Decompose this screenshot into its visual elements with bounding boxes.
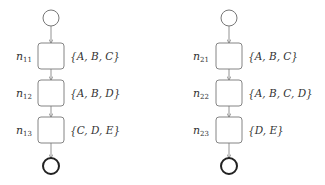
node-label: n13 [16,124,32,138]
task-node-n21[interactable] [216,43,242,69]
process-left: n11 n12 n13 {A, B, C} {A, B, D} {C, D, E… [16,10,120,174]
end-event-icon [43,158,59,174]
node-set: {A, B, C, D} [248,87,313,100]
task-node-n22[interactable] [216,80,242,106]
node-label: n11 [16,50,32,64]
node-set: {A, B, C} [70,50,120,63]
node-label: n12 [16,87,32,101]
node-label: n22 [193,87,209,101]
node-label: n21 [193,50,209,64]
node-set: {C, D, E} [70,124,120,137]
node-set: {A, B, C} [248,50,298,63]
process-right: n21 n22 n23 {A, B, C} {A, B, C, D} {D, E… [193,10,313,174]
task-node-n12[interactable] [38,80,64,106]
node-set: {D, E} [248,124,284,137]
node-set: {A, B, D} [70,87,120,100]
task-node-n23[interactable] [216,117,242,143]
end-event-icon [221,158,237,174]
task-node-n11[interactable] [38,43,64,69]
node-label: n23 [193,124,209,138]
process-diagram: n11 n12 n13 {A, B, C} {A, B, D} {C, D, E… [0,0,325,185]
start-event-icon [221,10,237,26]
task-node-n13[interactable] [38,117,64,143]
start-event-icon [43,10,59,26]
